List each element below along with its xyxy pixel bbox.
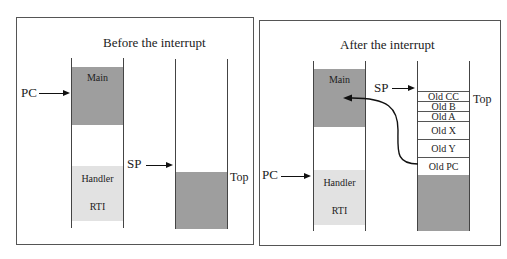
return-address-arrow bbox=[0, 0, 507, 259]
arrowhead-icon bbox=[343, 95, 352, 102]
